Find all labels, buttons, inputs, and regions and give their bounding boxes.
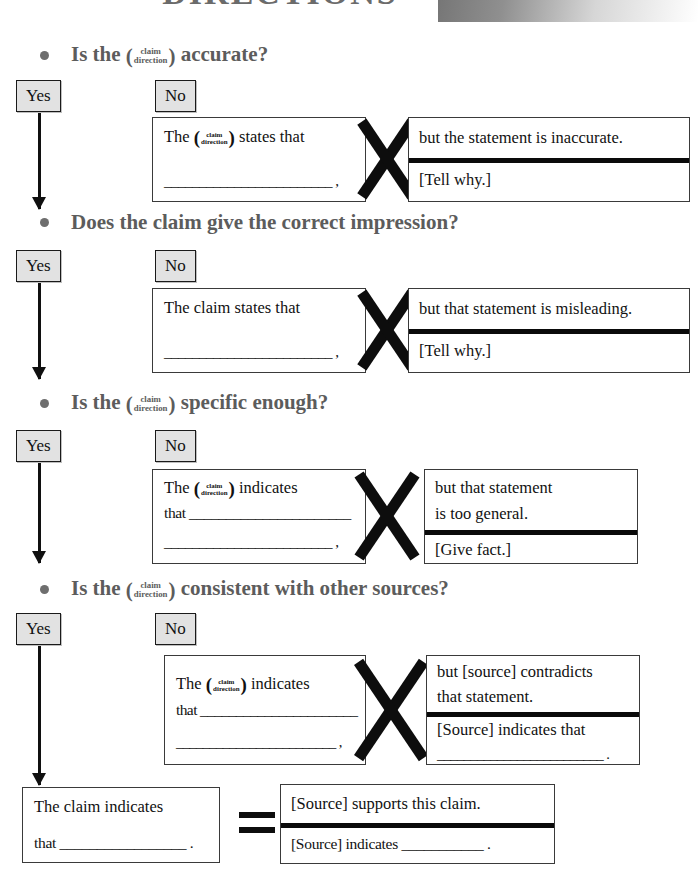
paren-open: (	[206, 674, 212, 695]
final-right-line-2[interactable]: [Source] indicates ___________ .	[291, 835, 491, 853]
final-left-line-2[interactable]: that _________________ .	[34, 834, 193, 852]
rebuttal-top-line-3a: but that statement	[435, 478, 552, 498]
rebuttal-top-line-4a: but [source] contradicts	[437, 662, 593, 682]
claim-frame-box-3[interactable]: The (claimdirection) indicates that ____…	[152, 469, 366, 564]
q4-prefix: Is the	[71, 576, 126, 600]
yes-arrow-2	[32, 283, 46, 379]
frame-3-prefix: The	[164, 478, 194, 497]
fraction-top: claim	[206, 482, 222, 489]
frame-line-4: The (claimdirection) indicates	[176, 674, 310, 696]
yes-chip-3[interactable]: Yes	[16, 430, 61, 462]
frame-that-line-3[interactable]: that ______________________	[164, 504, 351, 522]
rebuttal-top-line-2: but that statement is misleading.	[419, 299, 632, 319]
fraction-top: claim	[206, 131, 222, 138]
rebuttal-frame-box-2[interactable]: but that statement is misleading. [Tell …	[408, 288, 690, 373]
scan-smudge	[438, 0, 698, 22]
yes-chip-2[interactable]: Yes	[16, 250, 61, 282]
rebuttal-top-line-3b: is too general.	[435, 504, 528, 524]
final-right-line-1: [Source] supports this claim.	[291, 794, 481, 814]
no-chip-3[interactable]: No	[155, 430, 196, 462]
frame-line-2: The claim states that	[164, 298, 300, 318]
rebuttal-bottom-line-4b[interactable]: _________________________ .	[437, 746, 609, 763]
fraction-top: claim	[218, 678, 234, 685]
box-divider	[425, 530, 637, 535]
equals-stroke-1	[239, 812, 275, 818]
rebuttal-frame-box-4[interactable]: but [source] contradicts that statement.…	[426, 655, 640, 765]
question-text-1: Is the (claimdirection) accurate?	[71, 44, 268, 67]
box-divider	[409, 158, 689, 163]
paren-open: (	[194, 127, 200, 148]
rebuttal-bottom-line-2: [Tell why.]	[419, 341, 491, 361]
claim-direction-fraction: claimdirection	[134, 395, 168, 413]
x-operator-3	[358, 466, 416, 566]
arrow-shaft	[38, 113, 41, 209]
yes-chip-1[interactable]: Yes	[16, 80, 61, 112]
frame-4-suffix: indicates	[247, 674, 310, 693]
final-left-line-1: The claim indicates	[34, 797, 163, 817]
arrow-shaft	[38, 646, 41, 785]
bullet-icon	[40, 218, 49, 227]
arrow-head-icon	[32, 773, 46, 786]
equals-operator	[239, 812, 275, 833]
rebuttal-frame-box-3[interactable]: but that statement is too general. [Give…	[424, 469, 638, 564]
question-text-2: Does the claim give the correct impressi…	[71, 212, 459, 233]
rebuttal-bottom-line-1: [Tell why.]	[419, 170, 491, 190]
arrow-head-icon	[32, 551, 46, 564]
yes-arrow-4	[32, 646, 46, 785]
bullet-icon	[40, 399, 49, 408]
bullet-icon	[40, 51, 49, 60]
frame-blank-line-3[interactable]: ________________________ ,	[164, 534, 339, 551]
q1-suffix: accurate?	[175, 42, 268, 66]
question-text-4: Is the (claimdirection) consistent with …	[71, 578, 449, 601]
claim-direction-fraction: claimdirection	[134, 47, 168, 65]
claim-frame-box-1[interactable]: The (claimdirection) states that _______…	[152, 117, 366, 202]
frame-blank-line-4[interactable]: ________________________ ,	[176, 734, 342, 751]
bullet-icon	[40, 585, 49, 594]
q1-prefix: Is the	[71, 42, 126, 66]
final-claim-box[interactable]: The claim indicates that _______________…	[22, 787, 220, 863]
claim-direction-fraction: claimdirection	[201, 482, 227, 496]
frame-blank-line-1[interactable]: ________________________ ,	[164, 173, 339, 190]
rebuttal-bottom-line-4a: [Source] indicates that	[437, 720, 585, 740]
claim-direction-fraction: claimdirection	[134, 581, 168, 599]
question-row-1: Is the (claimdirection) accurate?	[40, 44, 268, 67]
frame-blank-line-2[interactable]: ________________________ ,	[164, 344, 339, 361]
fraction-bottom: direction	[134, 56, 168, 65]
claim-frame-box-2[interactable]: The claim states that __________________…	[152, 288, 366, 373]
fraction-bottom: direction	[213, 685, 239, 692]
no-chip-2[interactable]: No	[155, 250, 196, 282]
fraction-bottom: direction	[201, 489, 227, 496]
x-operator-4	[360, 652, 422, 768]
rebuttal-frame-box-1[interactable]: but the statement is inaccurate. [Tell w…	[408, 117, 690, 202]
fraction-bottom: direction	[134, 590, 168, 599]
no-chip-1[interactable]: No	[155, 80, 196, 112]
q4-suffix: consistent with other sources?	[175, 576, 448, 600]
question-text-3: Is the (claimdirection) specific enough?	[71, 392, 328, 415]
rebuttal-top-line-4b: that statement.	[437, 687, 533, 707]
question-row-3: Is the (claimdirection) specific enough?	[40, 392, 328, 415]
q3-prefix: Is the	[71, 390, 126, 414]
paren-open: (	[126, 578, 133, 602]
claim-direction-fraction: claimdirection	[201, 131, 227, 145]
fraction-bottom: direction	[134, 404, 168, 413]
claim-frame-box-4[interactable]: The (claimdirection) indicates that ____…	[164, 655, 366, 765]
frame-1-prefix: The	[164, 127, 194, 146]
yes-chip-4[interactable]: Yes	[16, 613, 61, 645]
arrow-head-icon	[32, 367, 46, 380]
yes-arrow-1	[32, 113, 46, 209]
frame-4-prefix: The	[176, 674, 206, 693]
frame-that-line-4[interactable]: that ______________________	[176, 701, 357, 719]
frame-line-1: The (claimdirection) states that	[164, 127, 305, 149]
box-divider	[281, 823, 554, 828]
box-divider	[427, 712, 639, 717]
yes-arrow-3	[32, 463, 46, 563]
arrow-shaft	[38, 283, 41, 379]
fraction-bottom: direction	[201, 138, 227, 145]
paren-open: (	[126, 392, 133, 416]
rebuttal-top-line-1: but the statement is inaccurate.	[419, 128, 623, 148]
final-source-box[interactable]: [Source] supports this claim. [Source] i…	[280, 784, 555, 864]
no-chip-4[interactable]: No	[155, 613, 196, 645]
claim-direction-fraction: claimdirection	[213, 678, 239, 692]
box-divider	[409, 329, 689, 334]
arrow-shaft	[38, 463, 41, 563]
